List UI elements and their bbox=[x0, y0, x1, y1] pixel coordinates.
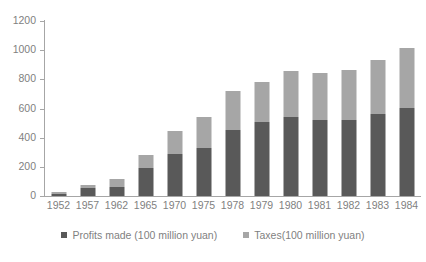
bar-segment-profits[interactable] bbox=[167, 154, 182, 196]
y-axis-tick-label: 1200 bbox=[0, 15, 36, 26]
bar-group bbox=[363, 21, 392, 196]
bars-layer bbox=[44, 21, 421, 196]
bar-stack[interactable] bbox=[370, 60, 385, 196]
bar-stack[interactable] bbox=[312, 73, 327, 196]
bar-segment-profits[interactable] bbox=[370, 114, 385, 196]
x-axis-tick-label: 1980 bbox=[276, 199, 305, 213]
bar-group bbox=[334, 21, 363, 196]
y-axis-tick-label: 600 bbox=[0, 103, 36, 114]
bar-stack[interactable] bbox=[196, 117, 211, 196]
legend-item[interactable]: Taxes(100 million yuan) bbox=[243, 230, 364, 241]
y-axis-tick-label: 400 bbox=[0, 132, 36, 143]
x-axis-tick-label: 1984 bbox=[392, 199, 421, 213]
y-axis-tick-label: 200 bbox=[0, 161, 36, 172]
bar-group bbox=[102, 21, 131, 196]
bar-stack[interactable] bbox=[225, 91, 240, 196]
bar-group bbox=[276, 21, 305, 196]
bar-segment-profits[interactable] bbox=[341, 120, 356, 196]
bar-stack[interactable] bbox=[109, 179, 124, 196]
bar-segment-profits[interactable] bbox=[399, 108, 414, 196]
bar-stack[interactable] bbox=[399, 48, 414, 196]
bar-segment-taxes[interactable] bbox=[370, 60, 385, 113]
x-axis-tick-label: 1965 bbox=[131, 199, 160, 213]
x-axis-tick-label: 1981 bbox=[305, 199, 334, 213]
bar-segment-taxes[interactable] bbox=[167, 131, 182, 154]
bar-group bbox=[305, 21, 334, 196]
bar-segment-taxes[interactable] bbox=[196, 117, 211, 148]
bar-group bbox=[131, 21, 160, 196]
legend-item[interactable]: Profits made (100 million yuan) bbox=[61, 230, 217, 241]
legend-swatch-icon bbox=[61, 232, 67, 238]
x-axis-tick-label: 1978 bbox=[218, 199, 247, 213]
bar-segment-profits[interactable] bbox=[109, 187, 124, 196]
x-axis-tick-label: 1952 bbox=[44, 199, 73, 213]
bar-group bbox=[73, 21, 102, 196]
bar-segment-taxes[interactable] bbox=[254, 82, 269, 122]
bar-segment-profits[interactable] bbox=[312, 120, 327, 196]
x-axis-tick-label: 1970 bbox=[160, 199, 189, 213]
bar-group bbox=[247, 21, 276, 196]
chart-legend: Profits made (100 million yuan)Taxes(100… bbox=[0, 230, 426, 241]
bar-stack[interactable] bbox=[283, 71, 298, 196]
bar-stack[interactable] bbox=[167, 131, 182, 196]
bar-segment-profits[interactable] bbox=[254, 122, 269, 196]
bar-segment-profits[interactable] bbox=[225, 130, 240, 196]
bar-segment-profits[interactable] bbox=[80, 188, 95, 196]
bar-group bbox=[44, 21, 73, 196]
x-axis-tick-label: 1983 bbox=[363, 199, 392, 213]
y-axis-tick-label: 0 bbox=[0, 190, 36, 201]
bar-segment-taxes[interactable] bbox=[312, 73, 327, 120]
x-axis-tick-label: 1957 bbox=[73, 199, 102, 213]
bar-segment-taxes[interactable] bbox=[399, 48, 414, 108]
bar-segment-taxes[interactable] bbox=[341, 70, 356, 120]
bar-segment-profits[interactable] bbox=[196, 148, 211, 196]
bar-segment-taxes[interactable] bbox=[225, 91, 240, 130]
bar-stack[interactable] bbox=[51, 192, 66, 196]
x-axis-tick-label: 1975 bbox=[189, 199, 218, 213]
y-axis-tick-label: 1000 bbox=[0, 44, 36, 55]
bar-group bbox=[218, 21, 247, 196]
bar-segment-profits[interactable] bbox=[138, 168, 153, 196]
x-axis-line bbox=[44, 196, 421, 197]
bar-stack[interactable] bbox=[341, 70, 356, 196]
x-axis-labels: 1952195719621965197019751978197919801981… bbox=[44, 199, 421, 215]
bar-segment-taxes[interactable] bbox=[283, 71, 298, 116]
x-axis-tick-label: 1979 bbox=[247, 199, 276, 213]
bar-group bbox=[160, 21, 189, 196]
legend-label: Profits made (100 million yuan) bbox=[72, 230, 217, 241]
x-axis-tick-label: 1982 bbox=[334, 199, 363, 213]
legend-label: Taxes(100 million yuan) bbox=[254, 230, 364, 241]
y-axis-tick-label: 800 bbox=[0, 73, 36, 84]
legend-swatch-icon bbox=[243, 232, 249, 238]
bar-stack[interactable] bbox=[138, 155, 153, 196]
stacked-bar-chart: 020040060080010001200 195219571962196519… bbox=[0, 0, 426, 262]
bar-stack[interactable] bbox=[254, 82, 269, 196]
bar-group bbox=[189, 21, 218, 196]
bar-segment-profits[interactable] bbox=[51, 194, 66, 196]
bar-segment-taxes[interactable] bbox=[109, 179, 124, 187]
bar-stack[interactable] bbox=[80, 185, 95, 196]
bar-segment-taxes[interactable] bbox=[138, 155, 153, 168]
bar-group bbox=[392, 21, 421, 196]
y-axis-tick bbox=[40, 196, 45, 197]
x-axis-tick-label: 1962 bbox=[102, 199, 131, 213]
bar-segment-profits[interactable] bbox=[283, 117, 298, 196]
